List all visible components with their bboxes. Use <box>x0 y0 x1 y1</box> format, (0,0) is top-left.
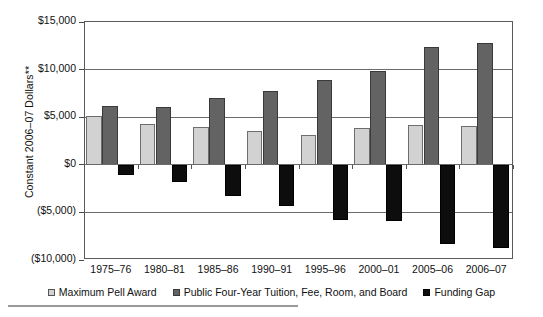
x-axis-tick-label: 2006–07 <box>459 263 513 275</box>
bar-pell <box>193 127 209 165</box>
y-axis-tick <box>79 260 84 261</box>
bar-group <box>353 22 407 258</box>
bar-pell <box>301 135 317 165</box>
bar-group <box>460 22 514 258</box>
y-axis-tick-label: ($5,000) <box>6 204 76 216</box>
bar-group <box>246 22 300 258</box>
bar-gap <box>225 165 241 196</box>
y-axis-title: Constant 2006–07 Dollars** <box>23 7 35 257</box>
x-axis-tick-label: 1980–81 <box>138 263 192 275</box>
chart-legend: Maximum Pell AwardPublic Four-Year Tuiti… <box>0 286 543 298</box>
bar-gap <box>333 165 349 220</box>
legend-label: Public Four-Year Tuition, Fee, Room, and… <box>184 286 408 298</box>
bar-gap <box>279 165 295 206</box>
x-axis-tick <box>513 165 514 169</box>
bar-pell <box>140 124 156 164</box>
y-axis-tick <box>79 69 84 70</box>
footer-divider <box>8 305 298 307</box>
legend-label: Funding Gap <box>434 286 495 298</box>
legend-swatch-icon <box>423 289 430 296</box>
bar-group <box>407 22 461 258</box>
bar-group <box>85 22 139 258</box>
y-axis-tick <box>79 212 84 213</box>
bar-pell <box>461 126 477 165</box>
bar-pell <box>247 131 263 164</box>
bar-tuition <box>209 98 225 165</box>
legend-swatch-icon <box>48 289 55 296</box>
y-axis-tick-label: $0 <box>6 157 76 169</box>
legend-item[interactable]: Maximum Pell Award <box>48 286 157 298</box>
y-axis-tick <box>79 22 84 23</box>
bar-group <box>192 22 246 258</box>
bar-pell <box>86 116 102 165</box>
bar-tuition <box>317 80 333 165</box>
bar-gap <box>118 165 134 175</box>
bar-pell <box>354 128 370 165</box>
bar-tuition <box>102 106 118 165</box>
legend-item[interactable]: Public Four-Year Tuition, Fee, Room, and… <box>173 286 408 298</box>
x-axis-tick-label: 1995–96 <box>299 263 353 275</box>
y-axis-tick-label: $5,000 <box>6 109 76 121</box>
bar-tuition <box>156 107 172 165</box>
y-axis-tick <box>79 164 84 165</box>
x-axis-tick-label: 2005–06 <box>406 263 460 275</box>
x-axis-tick-labels: 1975–761980–811985–861990–911995–962000–… <box>84 263 513 277</box>
x-axis-tick-label: 1975–76 <box>84 263 138 275</box>
bar-gap <box>386 165 402 222</box>
y-axis-tick-label: $15,000 <box>6 14 76 26</box>
bar-tuition <box>424 47 440 165</box>
bar-series-container <box>85 22 512 258</box>
x-axis-tick-label: 1985–86 <box>191 263 245 275</box>
y-axis-tick-label: $10,000 <box>6 62 76 74</box>
bar-gap <box>172 165 188 183</box>
y-axis-tick-label: ($10,000) <box>6 252 76 264</box>
bar-group <box>139 22 193 258</box>
x-axis-tick-label: 2000–01 <box>352 263 406 275</box>
x-axis-tick-label: 1990–91 <box>245 263 299 275</box>
legend-swatch-icon <box>173 289 180 296</box>
legend-item[interactable]: Funding Gap <box>423 286 495 298</box>
bar-gap <box>440 165 456 244</box>
figure-container: Constant 2006–07 Dollars** $15,000$10,00… <box>0 0 543 317</box>
bar-pell <box>408 125 424 165</box>
bar-tuition <box>263 91 279 165</box>
bar-gap <box>493 165 509 248</box>
legend-label: Maximum Pell Award <box>59 286 157 298</box>
plot-area <box>84 21 513 259</box>
bar-group <box>300 22 354 258</box>
bar-tuition <box>477 43 493 164</box>
y-axis-tick <box>79 117 84 118</box>
bar-tuition <box>370 71 386 165</box>
zero-axis-line <box>85 164 512 165</box>
